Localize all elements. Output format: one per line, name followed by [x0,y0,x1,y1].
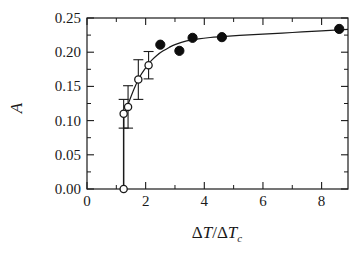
filled-circle-markers [156,24,344,55]
chart-plot: 02468 0.000.050.100.150.200.25 ΔT/ΔTc A [0,0,363,254]
y-tick-label: 0.20 [55,44,81,60]
open-circle-markers [120,62,152,193]
y-axis-label: A [7,102,26,114]
x-axis-ticks [87,18,322,189]
data-point-filled [335,24,344,33]
data-point-open [145,62,152,69]
data-point-open [124,103,131,110]
y-axis-tick-labels: 0.000.050.100.150.200.25 [55,10,81,197]
svg-text:ΔT/ΔTc: ΔT/ΔTc [192,223,243,244]
x-tick-label: 4 [201,193,209,209]
x-tick-label: 2 [142,193,150,209]
x-axis-label: ΔT/ΔTc [192,223,243,244]
y-axis-label-text: A [7,102,26,114]
x-tick-label: 0 [83,193,91,209]
data-point-filled [175,46,184,55]
x-tick-label: 8 [318,193,326,209]
data-point-open [120,185,127,192]
y-tick-label: 0.05 [55,147,81,163]
x-tick-label: 6 [259,193,267,209]
y-tick-label: 0.15 [55,78,81,94]
y-tick-label: 0.25 [55,10,81,26]
figure-container: 02468 0.000.050.100.150.200.25 ΔT/ΔTc A [0,0,363,254]
y-tick-label: 0.10 [55,113,81,129]
data-point-filled [188,33,197,42]
data-point-open [135,76,142,83]
data-point-filled [217,33,226,42]
data-point-filled [156,40,165,49]
x-axis-tick-labels: 02468 [83,193,325,209]
y-tick-label: 0.00 [55,181,81,197]
data-point-open [120,110,127,117]
